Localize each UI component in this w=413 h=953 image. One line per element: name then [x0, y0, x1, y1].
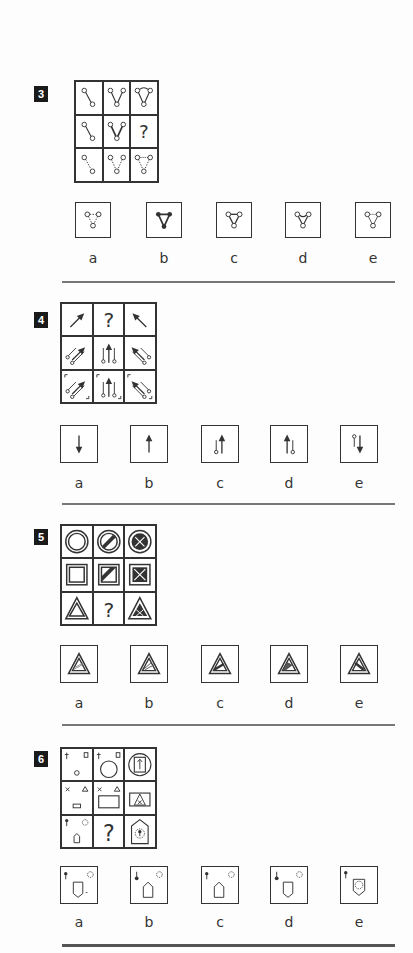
dashed-triangle-icon	[76, 203, 110, 237]
svg-text:?: ?	[103, 820, 115, 846]
section-divider	[62, 503, 395, 505]
svg-text:?: ?	[103, 308, 114, 332]
matrix-cell	[61, 748, 93, 781]
question-mark-icon: ?	[94, 593, 124, 624]
answer-option-a[interactable]	[60, 866, 98, 904]
matrix-cell	[124, 592, 156, 625]
dotted-line-nodes-icon	[76, 149, 102, 181]
matrix-cell	[124, 748, 156, 781]
section-divider	[62, 944, 395, 947]
arrow-up-right-lines-icon	[62, 337, 92, 368]
matrix-cell	[61, 336, 93, 369]
arrow-up-left-lines-icon	[125, 337, 155, 368]
section-divider	[62, 724, 395, 726]
triangle-cross-icon	[125, 593, 155, 624]
answer-option-e[interactable]	[340, 425, 378, 463]
answer-option-c[interactable]	[216, 202, 252, 238]
answer-option-e[interactable]	[340, 866, 378, 904]
matrix-cell	[93, 370, 125, 403]
arrow-up-line-right-icon	[271, 426, 307, 462]
answer-option-b[interactable]	[130, 645, 168, 683]
option-label: c	[202, 475, 238, 491]
pin-circle-shield-down-icon	[271, 867, 307, 903]
dotted-v-nodes-icon	[104, 149, 130, 181]
section-divider	[62, 281, 395, 283]
dotted-triangle-icon	[131, 149, 157, 181]
matrix-cell	[75, 81, 103, 115]
option-label: c	[216, 250, 252, 266]
arrow-up-left-corners-icon	[125, 371, 155, 402]
matrix-cell	[75, 148, 103, 182]
house-dotted-pin-icon	[125, 816, 155, 847]
matrix-cell	[124, 303, 156, 336]
circle-cross-icon	[125, 526, 155, 557]
line-nodes-icon	[76, 116, 102, 148]
answer-option-d[interactable]	[270, 645, 308, 683]
answer-option-c[interactable]	[201, 425, 239, 463]
puzzle-matrix: ?	[60, 524, 157, 626]
matrix-cell	[61, 525, 93, 558]
pin-circle-house-icon	[202, 867, 238, 903]
option-label: d	[285, 250, 321, 266]
matrix-cell	[124, 815, 156, 848]
matrix-cell	[61, 370, 93, 403]
answer-option-b[interactable]	[146, 202, 182, 238]
option-label: e	[341, 914, 377, 930]
matrix-cell	[61, 815, 93, 848]
pin-shield-dotted-circle-icon	[341, 867, 377, 903]
svg-text:?: ?	[103, 598, 114, 622]
x-triangle-rect-icon	[62, 782, 92, 813]
triangle-shaded-icon	[271, 646, 307, 682]
arrow-up-icon	[131, 426, 167, 462]
matrix-cell	[124, 525, 156, 558]
missing-cell: ?	[93, 592, 125, 625]
cross-square-circle-icon	[62, 749, 92, 780]
option-label: e	[341, 695, 377, 711]
double-circle-icon	[62, 526, 92, 557]
answer-option-c[interactable]	[201, 866, 239, 904]
matrix-cell	[75, 115, 103, 149]
option-label: a	[75, 250, 111, 266]
rect-triangle-x-icon	[125, 782, 155, 813]
option-label: d	[271, 695, 307, 711]
cross-square-big-circle-icon	[94, 749, 124, 780]
option-label: b	[131, 695, 167, 711]
matrix-cell	[103, 81, 131, 115]
square-slash-icon	[94, 559, 124, 590]
option-label: a	[61, 695, 97, 711]
answer-option-b[interactable]	[130, 866, 168, 904]
option-label: e	[341, 475, 377, 491]
arrow-up-corners-icon	[94, 371, 124, 402]
missing-cell: ?	[130, 115, 158, 149]
answer-option-c[interactable]	[201, 645, 239, 683]
circle-slash-icon	[94, 526, 124, 557]
matrix-cell	[124, 781, 156, 814]
arrow-down-icon	[61, 426, 97, 462]
answer-option-d[interactable]	[270, 866, 308, 904]
option-label: b	[131, 475, 167, 491]
answer-option-a[interactable]	[60, 425, 98, 463]
matrix-cell	[124, 558, 156, 591]
answer-option-b[interactable]	[130, 425, 168, 463]
option-label: a	[61, 475, 97, 491]
answer-option-e[interactable]	[340, 645, 378, 683]
matrix-cell	[93, 748, 125, 781]
svg-text:?: ?	[139, 121, 149, 142]
arrow-up-line-left-icon	[202, 426, 238, 462]
question-number-badge: 3	[34, 86, 48, 102]
matrix-cell	[103, 148, 131, 182]
arrow-up-right-icon	[62, 304, 92, 335]
missing-cell: ?	[93, 303, 125, 336]
answer-option-a[interactable]	[75, 202, 111, 238]
matrix-cell	[103, 115, 131, 149]
answer-option-d[interactable]	[270, 425, 308, 463]
answer-option-d[interactable]	[285, 202, 321, 238]
arrow-up-left-icon	[125, 304, 155, 335]
answer-option-a[interactable]	[60, 645, 98, 683]
option-label: b	[131, 914, 167, 930]
option-label: d	[271, 475, 307, 491]
question-mark-icon: ?	[131, 116, 157, 148]
solid-triangle-icon	[217, 203, 251, 237]
answer-option-e[interactable]	[355, 202, 391, 238]
matrix-cell	[93, 781, 125, 814]
